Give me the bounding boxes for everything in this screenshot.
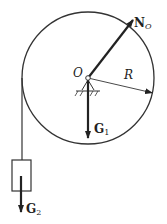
weight-pulley-label: G1 [94, 123, 109, 137]
weight-block-label: G2 [26, 203, 41, 217]
center-label: O [73, 67, 83, 79]
pulley-diagram [0, 0, 167, 224]
radius-label: R [124, 69, 133, 81]
center-pin [86, 76, 91, 81]
normal-force-label: NO [134, 17, 152, 31]
